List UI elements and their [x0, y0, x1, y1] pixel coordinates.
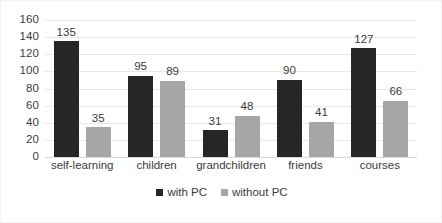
- bar-item: 48: [235, 20, 260, 157]
- legend-label: without PC: [232, 187, 288, 199]
- bar[interactable]: [86, 127, 111, 157]
- y-axis-tick-label: 80: [26, 83, 39, 95]
- bar-item: 66: [383, 20, 408, 157]
- bar-item: 127: [351, 20, 376, 157]
- bar[interactable]: [383, 101, 408, 158]
- bar-group: 3148: [194, 20, 268, 157]
- bar-groups: 1353595893148904112766: [45, 20, 417, 157]
- legend-swatch-icon: [221, 189, 228, 196]
- legend-label: with PC: [167, 187, 207, 199]
- bar[interactable]: [277, 80, 302, 157]
- bar[interactable]: [309, 122, 334, 157]
- bar-item: 135: [54, 20, 79, 157]
- x-axis-tick-label: children: [119, 160, 193, 178]
- bar-group: 9041: [268, 20, 342, 157]
- bar-value-label: 35: [92, 113, 105, 125]
- chart-legend: with PCwithout PC: [1, 187, 442, 199]
- y-axis-tick-label: 120: [20, 49, 40, 61]
- y-axis-tick-label: 60: [26, 100, 39, 112]
- axis-baseline: [45, 157, 417, 158]
- bar[interactable]: [160, 81, 185, 157]
- legend-swatch-icon: [156, 189, 163, 196]
- x-axis: self-learningchildrengrandchildrenfriend…: [45, 160, 417, 178]
- bar-value-label: 89: [166, 66, 179, 78]
- bar[interactable]: [128, 76, 153, 157]
- x-axis-tick-label: friends: [268, 160, 342, 178]
- bar-value-label: 135: [57, 27, 76, 39]
- bar-group: 12766: [343, 20, 417, 157]
- bar-value-label: 31: [209, 116, 222, 128]
- y-axis-tick-label: 40: [26, 117, 39, 129]
- legend-item[interactable]: with PC: [156, 187, 207, 199]
- bar-item: 95: [128, 20, 153, 157]
- y-axis-tick-label: 140: [20, 31, 40, 43]
- bar-value-label: 127: [354, 34, 373, 46]
- bar-item: 89: [160, 20, 185, 157]
- bar-item: 35: [86, 20, 111, 157]
- y-axis-tick-label: 20: [26, 134, 39, 146]
- bar[interactable]: [351, 48, 376, 157]
- bar-value-label: 41: [315, 107, 328, 119]
- bar-group: 9589: [119, 20, 193, 157]
- bar-item: 31: [203, 20, 228, 157]
- x-axis-tick-label: self-learning: [45, 160, 119, 178]
- bar[interactable]: [54, 41, 79, 157]
- bar[interactable]: [235, 116, 260, 157]
- bar-value-label: 48: [241, 101, 254, 113]
- bar-value-label: 95: [134, 61, 147, 73]
- y-axis: 160140120100806040200: [1, 20, 39, 157]
- bar-chart: 160140120100806040200 135359589314890411…: [0, 0, 442, 223]
- x-axis-tick-label: grandchildren: [194, 160, 268, 178]
- x-axis-tick-label: courses: [343, 160, 417, 178]
- y-axis-tick-label: 0: [33, 151, 40, 163]
- y-axis-tick-label: 160: [20, 14, 40, 26]
- bar-group: 13535: [45, 20, 119, 157]
- bar-value-label: 90: [283, 65, 296, 77]
- bar[interactable]: [203, 130, 228, 157]
- bar-value-label: 66: [389, 86, 402, 98]
- bar-item: 90: [277, 20, 302, 157]
- legend-item[interactable]: without PC: [221, 187, 288, 199]
- bar-item: 41: [309, 20, 334, 157]
- y-axis-tick-label: 100: [20, 66, 40, 78]
